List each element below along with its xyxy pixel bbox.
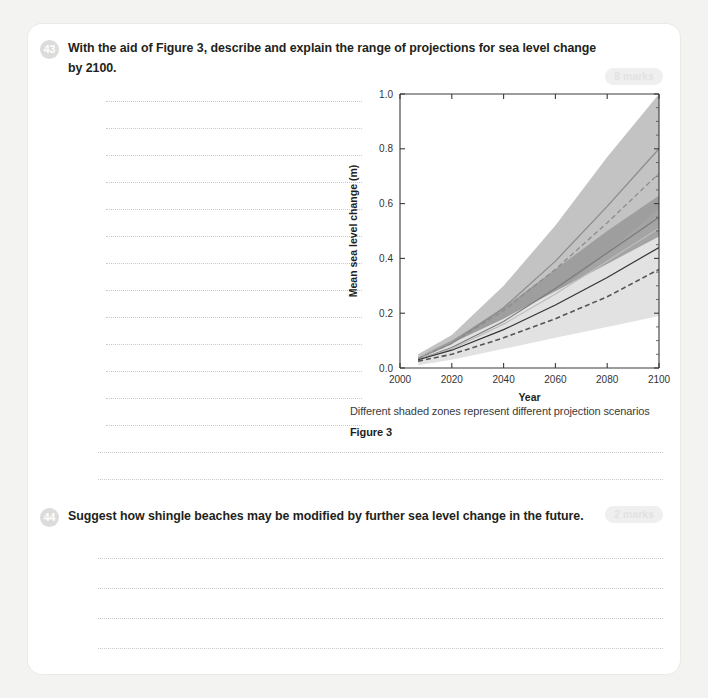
svg-text:0.2: 0.2 bbox=[379, 308, 393, 319]
answer-line[interactable] bbox=[106, 155, 362, 156]
svg-text:2100: 2100 bbox=[648, 374, 671, 385]
marks-badge-44: 2 marks bbox=[605, 506, 663, 523]
answer-line[interactable] bbox=[106, 290, 362, 291]
answer-line[interactable] bbox=[106, 263, 362, 264]
svg-text:Year: Year bbox=[518, 391, 540, 403]
svg-text:Mean sea level change (m): Mean sea level change (m) bbox=[347, 165, 359, 297]
answer-line[interactable] bbox=[98, 588, 663, 589]
worksheet-card: 43 With the aid of Figure 3, describe an… bbox=[28, 24, 680, 674]
answer-line[interactable] bbox=[98, 618, 663, 619]
question-number-badge-44: 44 bbox=[40, 508, 59, 527]
answer-line[interactable] bbox=[106, 209, 362, 210]
answer-line[interactable] bbox=[106, 236, 362, 237]
answer-line[interactable] bbox=[98, 648, 663, 649]
svg-text:0.0: 0.0 bbox=[379, 363, 393, 374]
svg-text:2000: 2000 bbox=[389, 374, 412, 385]
figure-label: Figure 3 bbox=[350, 426, 392, 438]
answer-line[interactable] bbox=[106, 344, 362, 345]
svg-text:0.4: 0.4 bbox=[379, 253, 393, 264]
answer-line[interactable] bbox=[98, 479, 663, 480]
question-text-43: With the aid of Figure 3, describe and e… bbox=[68, 38, 613, 78]
answer-line[interactable] bbox=[106, 371, 362, 372]
answer-line[interactable] bbox=[106, 398, 362, 399]
sea-level-projection-chart: 0.00.20.40.60.81.02000202020402060208021… bbox=[346, 84, 671, 414]
svg-text:0.6: 0.6 bbox=[379, 198, 393, 209]
answer-line[interactable] bbox=[106, 101, 362, 102]
svg-text:2040: 2040 bbox=[492, 374, 515, 385]
question-number-badge-43: 43 bbox=[40, 40, 59, 59]
figure-note: Different shaded zones represent differe… bbox=[350, 405, 670, 417]
question-text-44: Suggest how shingle beaches may be modif… bbox=[68, 506, 628, 526]
svg-text:0.8: 0.8 bbox=[379, 143, 393, 154]
answer-line[interactable] bbox=[106, 317, 362, 318]
answer-line[interactable] bbox=[106, 182, 362, 183]
answer-line[interactable] bbox=[98, 558, 663, 559]
svg-text:2080: 2080 bbox=[596, 374, 619, 385]
marks-badge-43: 8 marks bbox=[605, 68, 663, 85]
svg-text:2060: 2060 bbox=[544, 374, 567, 385]
svg-text:1.0: 1.0 bbox=[379, 89, 393, 100]
answer-line[interactable] bbox=[106, 425, 362, 426]
answer-line[interactable] bbox=[106, 128, 362, 129]
svg-text:2020: 2020 bbox=[441, 374, 464, 385]
